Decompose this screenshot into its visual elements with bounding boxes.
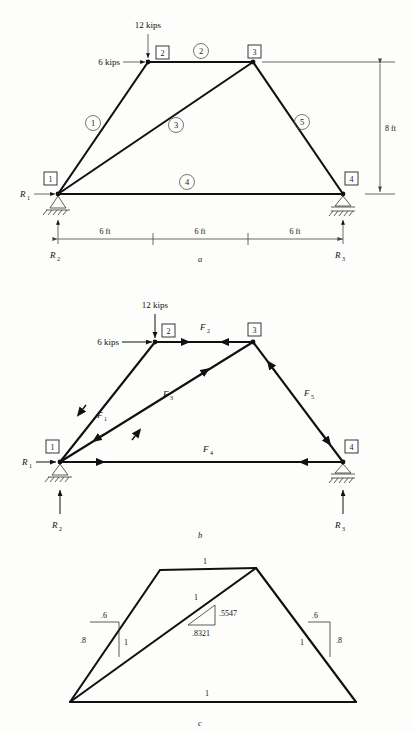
- joint-2-text: 2: [167, 327, 171, 336]
- member-1-line: [58, 62, 148, 194]
- joint-label-1: 1: [44, 172, 57, 185]
- horizontal-load-arrow: 6 kips: [97, 337, 152, 347]
- member-label-4: 4: [180, 175, 195, 190]
- force-F5-sub: 5: [311, 394, 314, 400]
- diagonal-hyp-label: 1: [194, 593, 198, 602]
- joint-2-dot: [146, 60, 151, 65]
- joint-label-2: 2: [156, 46, 169, 59]
- force-F1-text: F: [96, 410, 103, 420]
- member-3-text: 3: [174, 120, 178, 130]
- roller-support-node4: [329, 464, 355, 483]
- pin-support-node1: [45, 464, 72, 482]
- force-label-F3: F 3: [162, 389, 173, 401]
- reaction-R2-label: R: [49, 250, 56, 260]
- horizontal-load-label: 6 kips: [98, 57, 120, 67]
- joint-label-1: 1: [46, 440, 59, 453]
- bottom-chord-label: 1: [205, 689, 209, 698]
- reaction-R1: R 1: [19, 189, 55, 201]
- force-F2-text: F: [199, 322, 206, 332]
- member-label-2: 2: [194, 44, 209, 59]
- member-5-text: 5: [300, 117, 304, 127]
- joint-4-text: 4: [350, 175, 354, 184]
- reaction-R1: R 1: [21, 457, 56, 469]
- diagonal-vert-label: .5547: [219, 609, 237, 618]
- vertical-load-label: 12 kips: [142, 300, 169, 310]
- force-F1-sub: 1: [104, 416, 107, 422]
- horizontal-load-arrow: 6 kips: [98, 57, 145, 67]
- joint-label-4: 4: [345, 172, 358, 185]
- horizontal-load-label: 6 kips: [97, 337, 119, 347]
- height-label: 8 ft: [385, 124, 397, 133]
- joint-3-text: 3: [253, 48, 257, 57]
- reaction-R2-label: R: [51, 520, 58, 530]
- member-2-line: [160, 568, 256, 570]
- span-2-label: 6 ft: [195, 227, 207, 236]
- joint-1-text: 1: [49, 175, 53, 184]
- force-F4-sub: 4: [210, 450, 213, 456]
- joint-2-text: 2: [161, 49, 165, 58]
- span-3-label: 6 ft: [290, 227, 302, 236]
- diagonal-horiz-label: .8321: [192, 629, 210, 638]
- reaction-R3-sub: 3: [342, 256, 345, 262]
- left-direction-triangle: .6 .8 1: [80, 611, 128, 657]
- reaction-R2-sub: 2: [59, 526, 62, 532]
- member-2-text: 2: [199, 46, 203, 56]
- joint-2-dot: [153, 340, 158, 345]
- reaction-R2-sub: 2: [57, 256, 60, 262]
- right-hyp-label: 1: [300, 638, 304, 647]
- joint-label-2: 2: [162, 324, 175, 337]
- right-vert-label: .8: [336, 636, 342, 645]
- joint-1-text: 1: [51, 443, 55, 452]
- member-1-text: 1: [91, 118, 95, 128]
- member-3-line: [70, 568, 256, 702]
- right-horiz-label: .6: [312, 611, 318, 620]
- reaction-R1-sub: 1: [29, 463, 32, 469]
- force-F4-text: F: [202, 444, 209, 454]
- vertical-load-label: 12 kips: [135, 20, 162, 30]
- joint-label-3: 3: [248, 323, 261, 336]
- joint-3-dot: [251, 340, 256, 345]
- force-label-F4: F 4: [202, 444, 213, 456]
- reaction-R3: R 3: [334, 220, 345, 262]
- joint-label-3: 3: [248, 45, 261, 58]
- span-1-label: 6 ft: [100, 227, 112, 236]
- joint-label-4: 4: [345, 440, 358, 453]
- span-dimension-line: 6 ft 6 ft 6 ft: [58, 227, 343, 245]
- force-label-F1: F 1: [96, 410, 107, 422]
- panel-a-truss-geometry: 1 2 3 4 1 2 3 4 5 12 kips 6 kips: [0, 0, 414, 268]
- roller-support-node4: [329, 196, 355, 216]
- force-F3-text: F: [162, 389, 169, 399]
- force-label-F5: F 5: [303, 388, 314, 400]
- reaction-R3-sub: 3: [342, 526, 345, 532]
- left-horiz-label: .6: [101, 611, 107, 620]
- reaction-R1-label: R: [21, 457, 28, 467]
- member-5-line: [253, 342, 343, 462]
- pin-support-node1: [43, 196, 70, 215]
- reaction-R1-label: R: [19, 189, 26, 199]
- force-label-F2: F 2: [199, 322, 210, 334]
- joint-3-text: 3: [253, 326, 257, 335]
- reaction-R3-label: R: [334, 250, 341, 260]
- member-1-line: [60, 342, 155, 462]
- member-4-text: 4: [185, 177, 190, 187]
- member-3-line: [60, 342, 253, 462]
- joint-4-text: 4: [350, 443, 354, 452]
- member-label-5: 5: [295, 115, 310, 130]
- force-F2-sub: 2: [207, 328, 210, 334]
- panel-a-letter: a: [198, 254, 202, 264]
- panel-b-letter: b: [198, 530, 202, 540]
- panel-b-free-body-diagram: 1 2 3 4 F 1 F 2 F 3 F 4 F 5 12 kips 6 ki…: [0, 268, 414, 540]
- reaction-R1-sub: 1: [27, 195, 30, 201]
- reaction-R2: R 2: [51, 490, 62, 532]
- panel-c-direction-cosines: 1 1 .6 .8 1 .6 .8 1 1 .5547 .8321 c: [0, 540, 414, 733]
- left-hyp-label: 1: [124, 638, 128, 647]
- force-F5-text: F: [303, 388, 310, 398]
- member-5-line: [256, 568, 356, 702]
- left-vert-label: .8: [80, 636, 86, 645]
- reaction-R2: R 2: [49, 220, 60, 262]
- member-label-3: 3: [169, 118, 184, 133]
- reaction-R3-label: R: [334, 520, 341, 530]
- top-chord-label: 1: [203, 557, 207, 566]
- member-label-1: 1: [86, 116, 101, 131]
- joint-3-dot: [251, 60, 256, 65]
